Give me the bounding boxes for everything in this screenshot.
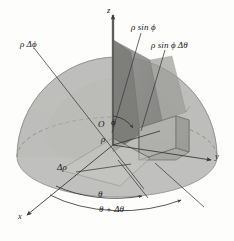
axis-label-x: x [18,212,22,221]
label-phi: ϕ [111,118,116,127]
label-origin: O [98,120,105,129]
label-rho-delta-phi: ρ Δϕ [20,40,37,49]
label-delta-rho: Δρ [57,163,67,172]
axis-label-y: y [215,152,219,161]
spherical-coordinates-figure: z y x O ρ Δϕ ρ sin ϕ ρ sin ϕ Δθ ϕ ρ Δρ θ… [0,0,234,241]
label-rho: ρ [101,135,105,144]
label-rho-sin-phi: ρ sin ϕ [131,23,156,32]
label-theta: θ [98,190,103,199]
label-rho-sin-phi-delta-theta: ρ sin ϕ Δθ [151,41,188,50]
axis-label-z: z [107,6,110,15]
label-theta-plus-delta-theta: θ + Δθ [99,205,124,214]
